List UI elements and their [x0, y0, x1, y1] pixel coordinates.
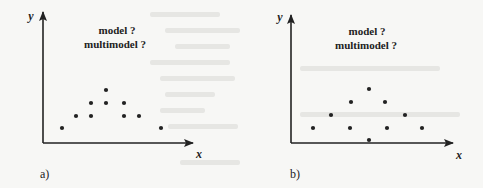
data-point: [104, 88, 108, 92]
question-model: model ?: [349, 25, 386, 37]
panel-tag: a): [40, 167, 49, 181]
data-point: [367, 87, 371, 91]
data-point: [104, 101, 108, 105]
data-point: [89, 101, 93, 105]
data-point: [311, 126, 315, 130]
y-axis-label: y: [275, 10, 283, 24]
question-multimodel: multimodel ?: [84, 38, 146, 50]
x-axis-label: x: [455, 148, 462, 162]
data-point: [420, 126, 424, 130]
data-point: [348, 126, 352, 130]
panel-a: model ?multimodel ?xya): [26, 9, 202, 181]
question-multimodel: multimodel ?: [335, 39, 397, 51]
data-point: [89, 114, 93, 118]
panel-b: model ?multimodel ?xyb): [275, 10, 462, 181]
data-point: [403, 113, 407, 117]
data-point: [60, 126, 64, 130]
data-point: [329, 113, 333, 117]
data-point: [74, 114, 78, 118]
data-point: [349, 100, 353, 104]
question-model: model ?: [99, 24, 136, 36]
figure-canvas: model ?multimodel ?xya)model ?multimodel…: [0, 0, 483, 188]
data-point: [159, 126, 163, 130]
panel-tag: b): [290, 167, 300, 181]
data-point: [383, 100, 387, 104]
x-axis-label: x: [195, 147, 202, 161]
y-axis-label: y: [26, 9, 34, 23]
data-point: [367, 138, 371, 142]
data-point: [122, 101, 126, 105]
data-point: [385, 126, 389, 130]
data-point: [122, 114, 126, 118]
data-point: [137, 114, 141, 118]
panels: model ?multimodel ?xya)model ?multimodel…: [26, 9, 462, 181]
